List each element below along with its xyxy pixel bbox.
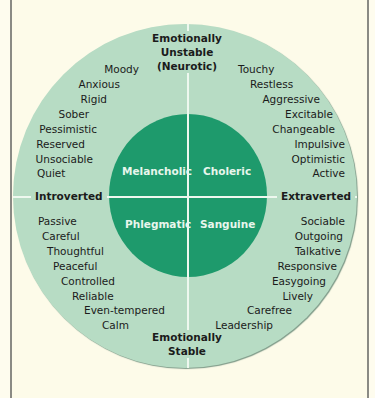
trait: Active bbox=[313, 168, 345, 179]
trait: Sober bbox=[58, 109, 89, 120]
trait: Excitable bbox=[285, 109, 333, 120]
trait: Moody bbox=[104, 64, 139, 75]
trait: Changeable bbox=[272, 124, 335, 135]
trait: Even-tempered bbox=[84, 305, 165, 316]
trait: Unsociable bbox=[36, 154, 93, 165]
trait: Talkative bbox=[295, 246, 341, 257]
axis-label-top: Emotionally Unstable (Neurotic) bbox=[147, 31, 227, 73]
trait: Easygoing bbox=[272, 276, 326, 287]
trait: Optimistic bbox=[292, 154, 345, 165]
trait: Peaceful bbox=[53, 261, 97, 272]
trait: Rigid bbox=[81, 94, 107, 105]
trait: Anxious bbox=[78, 79, 120, 90]
trait: Calm bbox=[102, 320, 129, 331]
axis-top-line-2: Unstable bbox=[147, 45, 227, 59]
trait: Responsive bbox=[277, 261, 337, 272]
axis-bottom-line-2: Stable bbox=[147, 344, 227, 358]
trait: Aggressive bbox=[262, 94, 320, 105]
trait: Outgoing bbox=[295, 231, 343, 242]
axis-top-line-3: (Neurotic) bbox=[147, 59, 227, 73]
trait: Reliable bbox=[72, 291, 114, 302]
axis-label-bottom: Emotionally Stable bbox=[147, 330, 227, 358]
trait: Thoughtful bbox=[47, 246, 104, 257]
trait: Carefree bbox=[247, 305, 292, 316]
trait: Passive bbox=[38, 216, 77, 227]
trait: Restless bbox=[250, 79, 293, 90]
trait: Quiet bbox=[37, 168, 65, 179]
trait: Impulsive bbox=[294, 139, 345, 150]
trait: Reserved bbox=[36, 139, 85, 150]
trait: Careful bbox=[42, 231, 80, 242]
axis-bottom-line-1: Emotionally bbox=[147, 330, 227, 344]
trait: Controlled bbox=[61, 276, 115, 287]
temperament-choleric: Choleric bbox=[203, 165, 251, 177]
axis-label-left: Introverted bbox=[31, 190, 107, 203]
temperament-phlegmatic: Phlegmatic bbox=[125, 218, 191, 230]
trait: Touchy bbox=[238, 64, 274, 75]
axis-top-line-1: Emotionally bbox=[147, 31, 227, 45]
trait: Pessimistic bbox=[39, 124, 97, 135]
axis-label-right: Extraverted bbox=[277, 190, 355, 203]
temperament-sanguine: Sanguine bbox=[200, 218, 255, 230]
temperament-melancholic: Melancholic bbox=[122, 165, 192, 177]
trait: Leadership bbox=[215, 320, 273, 331]
trait: Lively bbox=[282, 291, 313, 302]
trait: Sociable bbox=[301, 216, 345, 227]
